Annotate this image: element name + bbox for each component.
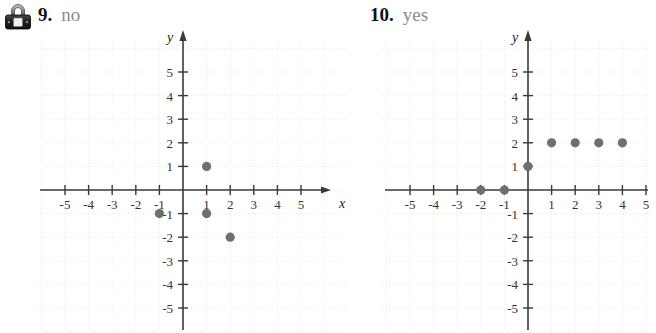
y-tick-label: 2	[512, 136, 519, 151]
x-tick-label: 3	[251, 197, 257, 212]
x-tick-label: 4	[619, 197, 626, 212]
x-tick-label: -4	[428, 197, 439, 212]
data-point	[547, 138, 556, 147]
data-point	[155, 209, 164, 218]
data-point	[226, 233, 235, 242]
x-tick-label: 2	[227, 197, 234, 212]
x-tick-label: -2	[475, 197, 486, 212]
y-axis-label: y	[510, 30, 519, 45]
y-tick-label: -2	[507, 230, 518, 245]
x-tick-label: 2	[572, 197, 579, 212]
y-tick-label: 2	[167, 136, 174, 151]
data-point	[202, 162, 211, 171]
y-tick-label: -1	[507, 207, 518, 222]
coordinate-plane-problem-10: -5-4-3-2-112345-5-4-3-2-112345 y	[375, 0, 656, 333]
data-point	[202, 209, 211, 218]
y-tick-label: 4	[512, 89, 519, 104]
gridlines-9	[38, 40, 346, 332]
x-tick-label: -3	[452, 197, 463, 212]
x-tick-label: -5	[60, 197, 71, 212]
x-axis-label: x	[338, 196, 346, 211]
axis-names-9: yx	[165, 30, 346, 211]
x-tick-label: -3	[107, 197, 118, 212]
data-point	[618, 138, 627, 147]
y-tick-label: -4	[507, 277, 518, 292]
y-tick-label: 1	[512, 159, 519, 174]
y-axis-label: y	[165, 30, 174, 45]
data-point	[523, 162, 532, 171]
data-point	[594, 138, 603, 147]
x-tick-label: -5	[405, 197, 416, 212]
x-tick-label: 5	[643, 197, 650, 212]
y-tick-label: 5	[512, 65, 519, 80]
y-tick-label: -5	[162, 301, 173, 316]
y-tick-label: 4	[167, 89, 174, 104]
y-tick-label: 1	[167, 159, 174, 174]
y-tick-label: -3	[507, 254, 518, 269]
y-tick-label: 5	[167, 65, 174, 80]
data-point	[500, 185, 509, 194]
y-tick-label: 3	[512, 112, 519, 127]
x-tick-label: 5	[298, 197, 305, 212]
scatter-plot-10: -5-4-3-2-112345-5-4-3-2-112345 y	[375, 0, 656, 333]
y-tick-label: -4	[162, 277, 173, 292]
y-tick-label: -5	[507, 301, 518, 316]
x-tick-label: -4	[83, 197, 94, 212]
x-tick-label: -2	[130, 197, 141, 212]
scatter-plot-9: -5-4-3-2-112345-5-4-3-2-112345 yx	[30, 0, 350, 333]
x-tick-label: 1	[548, 197, 555, 212]
coordinate-plane-problem-9: -5-4-3-2-112345-5-4-3-2-112345 yx	[30, 0, 350, 333]
data-point	[571, 138, 580, 147]
y-tick-label: -3	[162, 254, 173, 269]
y-tick-label: 3	[167, 112, 174, 127]
x-tick-label: 3	[596, 197, 603, 212]
y-tick-label: -2	[162, 230, 173, 245]
axis-names-10: y	[510, 30, 519, 45]
x-tick-label: 4	[274, 197, 281, 212]
data-point	[476, 185, 485, 194]
